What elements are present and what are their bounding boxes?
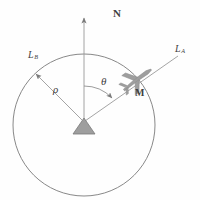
label-line-a-base: L (175, 43, 181, 54)
radar-bearing-diagram: N LA LB ρ θ M (0, 0, 200, 200)
label-line-b-subscript: B (34, 53, 38, 60)
label-line-b: LB (28, 50, 38, 61)
label-range-rho: ρ (53, 84, 58, 95)
label-line-b-base: L (28, 49, 34, 60)
angle-arc-theta (84, 86, 112, 98)
label-target-m: M (135, 88, 144, 98)
label-angle-theta: θ (101, 76, 106, 87)
label-line-a: LA (175, 44, 185, 55)
diagram-canvas (0, 0, 200, 200)
label-north: N (113, 8, 121, 19)
station-triangle-marker (73, 118, 95, 134)
label-line-a-subscript: A (181, 47, 185, 54)
line-b-radius (36, 74, 82, 120)
